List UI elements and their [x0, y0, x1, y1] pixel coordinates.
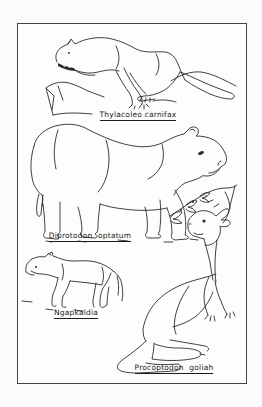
- book-page: Thylacoleo carnifax Diprotodon optatum N…: [0, 0, 262, 407]
- figure-artwork: [18, 24, 246, 383]
- species-name: Diprotodon optatum: [49, 231, 132, 242]
- illustration-procoptodon: [117, 185, 237, 373]
- species-label-diprotodon: Diprotodon optatum: [46, 231, 134, 240]
- species-label-thylacoleo: Thylacoleo carnifax: [86, 110, 190, 119]
- illustration-diprotodon: [31, 124, 227, 242]
- species-name: Procoptodon goliah: [135, 363, 214, 374]
- species-name: Thylacoleo carnifax: [100, 110, 177, 121]
- illustration-thylacoleo: [46, 38, 236, 115]
- illustration-ngapkaldia: [22, 252, 123, 311]
- species-name: Ngapkaldia: [54, 308, 98, 319]
- figure-frame: Thylacoleo carnifax Diprotodon optatum N…: [17, 23, 247, 384]
- species-label-ngapkaldia: Ngapkaldia: [46, 308, 106, 317]
- species-label-procoptodon: Procoptodon goliah: [126, 363, 222, 372]
